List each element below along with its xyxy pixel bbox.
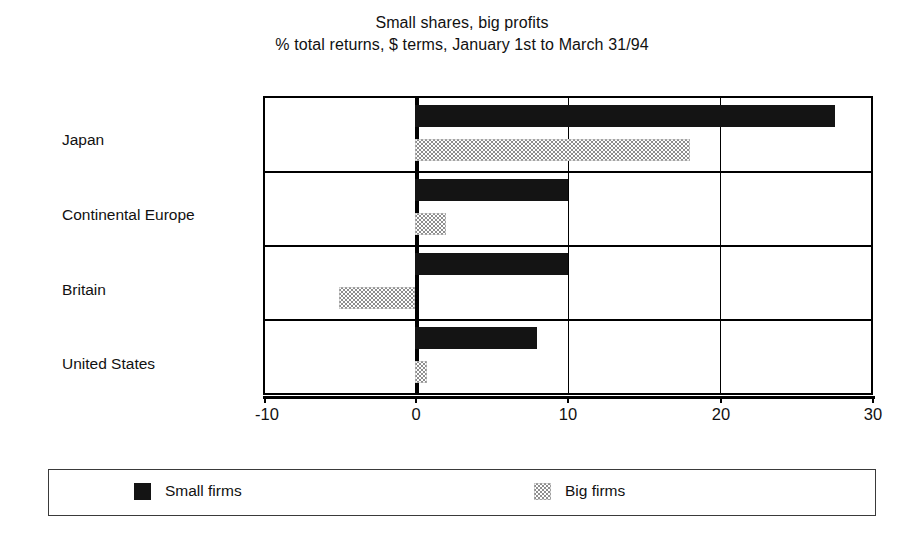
bar-small-firms-continental-europe [415, 179, 568, 201]
chart-legend: Small firms Big firms [48, 469, 876, 516]
bar-small-firms-britain [415, 253, 568, 275]
category-label-united-states: United States [62, 355, 257, 373]
bar-big-firms-continental-europe [415, 213, 446, 235]
gridline-twenty [720, 98, 721, 393]
legend-label-big-firms: Big firms [565, 482, 625, 500]
stippled-gray-swatch-icon [534, 483, 551, 500]
legend-entry-big-firms: Big firms [534, 482, 625, 500]
x-tick-label-zero: 0 [386, 404, 446, 424]
bar-big-firms-britain [339, 287, 415, 309]
bar-big-firms-japan [415, 139, 690, 161]
x-tick-mark [872, 396, 874, 403]
chart-title: Small shares, big profits [0, 12, 924, 34]
x-tick-mark [720, 396, 722, 403]
solid-black-swatch-icon [134, 483, 151, 500]
x-tick-mark [264, 396, 266, 403]
chart-title-block: Small shares, big profits % total return… [0, 12, 924, 56]
x-axis-line [263, 396, 875, 399]
category-label-britain: Britain [62, 281, 257, 299]
category-label-japan: Japan [62, 131, 257, 149]
bar-small-firms-japan [415, 105, 835, 127]
chart-subtitle: % total returns, $ terms, January 1st to… [0, 34, 924, 56]
bar-big-firms-united-states [415, 361, 427, 383]
x-tick-label-twenty: 20 [691, 404, 751, 424]
category-label-continental-europe: Continental Europe [62, 206, 257, 224]
x-tick-label-ten: 10 [538, 404, 598, 424]
x-tick-label-minus-ten: -10 [237, 404, 297, 424]
legend-entry-small-firms: Small firms [134, 482, 242, 500]
x-tick-mark [415, 396, 417, 403]
legend-label-small-firms: Small firms [165, 482, 242, 500]
x-tick-mark [567, 396, 569, 403]
plot-area [263, 96, 873, 395]
bar-small-firms-united-states [415, 327, 537, 349]
x-tick-label-thirty: 30 [843, 404, 903, 424]
